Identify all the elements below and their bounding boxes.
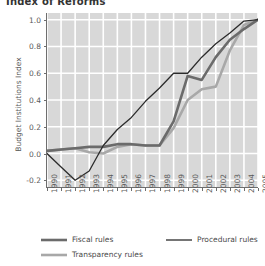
x-axis-tick — [174, 188, 175, 191]
y-axis-tick-label: 0.0 — [29, 149, 41, 158]
x-axis-tick — [75, 188, 76, 191]
x-axis-tick-label: 2002 — [219, 174, 228, 193]
plot-area — [47, 13, 258, 187]
x-axis-tick — [117, 188, 118, 191]
chart-container: Index of Reforms Budget Institutions Ind… — [0, 0, 265, 266]
plot-svg — [47, 13, 258, 187]
legend-item-fiscal-rules: Fiscal rules — [41, 235, 113, 244]
legend-swatch-transparency-rules — [41, 251, 67, 259]
x-axis-tick — [230, 188, 231, 191]
x-axis-tick-label: 1992 — [78, 174, 87, 193]
x-axis-tick-label: 1996 — [134, 174, 143, 193]
series-line-fiscal-rules — [47, 20, 258, 151]
x-axis-ticks: 1990199119921993199419951996199719981999… — [47, 188, 262, 233]
legend-label-fiscal-rules: Fiscal rules — [72, 235, 113, 244]
y-axis-ticks: -0.20.00.20.40.60.81.0 — [0, 0, 47, 266]
x-axis-tick-label: 2003 — [233, 174, 242, 193]
legend-item-procedural-rules: Procedural rules — [166, 235, 258, 244]
legend-label-transparency-rules: Transparency rules — [72, 250, 143, 259]
x-axis-tick-label: 2005 — [261, 174, 265, 193]
x-axis-tick-label: 2000 — [191, 174, 200, 193]
x-axis-tick — [103, 188, 104, 191]
x-axis-tick — [145, 188, 146, 191]
x-axis-tick-label: 1995 — [120, 174, 129, 193]
legend-swatch-procedural-rules — [166, 236, 192, 244]
x-axis-tick-label: 1990 — [50, 174, 59, 193]
x-axis-tick — [258, 188, 259, 191]
x-axis-tick — [160, 188, 161, 191]
y-axis-tick-label: 0.6 — [29, 69, 41, 78]
y-axis-tick-label: 0.8 — [29, 42, 41, 51]
x-axis-tick — [61, 188, 62, 191]
series-line-transparency-rules — [47, 20, 258, 154]
x-axis-tick-label: 1994 — [106, 174, 115, 193]
chart-legend: Fiscal rules Procedural rules Transparen… — [0, 235, 265, 266]
x-axis-tick-label: 2004 — [247, 174, 256, 193]
x-axis-tick — [131, 188, 132, 191]
x-axis-tick — [47, 188, 48, 191]
x-axis-tick — [89, 188, 90, 191]
x-axis-tick — [244, 188, 245, 191]
y-axis-tick-label: 1.0 — [29, 15, 41, 24]
x-axis-tick-label: 1991 — [64, 174, 73, 193]
x-axis-tick — [216, 188, 217, 191]
y-axis-tick-label: 0.4 — [29, 96, 41, 105]
x-axis-tick-label: 2001 — [205, 174, 214, 193]
x-axis-tick-label: 1998 — [163, 174, 172, 193]
x-axis-tick-label: 1997 — [148, 174, 157, 193]
y-axis-tick-label: 0.2 — [29, 122, 41, 131]
legend-swatch-fiscal-rules — [41, 236, 67, 244]
x-axis-tick-label: 1999 — [177, 174, 186, 193]
legend-label-procedural-rules: Procedural rules — [197, 235, 258, 244]
y-axis-tick-label: -0.2 — [26, 176, 41, 185]
x-axis-tick-label: 1993 — [92, 174, 101, 193]
x-axis-tick — [188, 188, 189, 191]
x-axis-tick — [202, 188, 203, 191]
legend-item-transparency-rules: Transparency rules — [41, 250, 143, 259]
